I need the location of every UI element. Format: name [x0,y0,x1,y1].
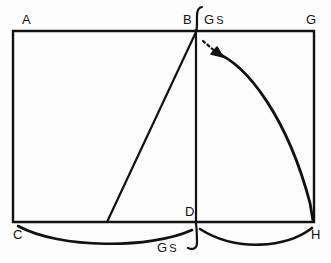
gs-annotation-top: GS [204,13,223,26]
brace-top-hook [196,7,202,32]
gs-bottom-s-letter: S [169,242,176,254]
arc-D-to-H [200,228,312,245]
diagram-canvas [0,0,331,263]
gs-annotation-bottom: GS [157,241,176,254]
vertex-label-A: A [22,13,31,26]
diagonal-line-B-to-CD [107,32,196,222]
gs-top-g-letter: G [204,12,214,27]
vertex-label-B: B [183,13,192,26]
swing-arc-B-to-H [214,52,313,221]
gs-top-s-letter: S [216,14,223,26]
vertex-label-C: C [13,228,23,241]
vertex-label-D: D [185,205,195,218]
vertex-label-G: G [306,13,316,26]
brace-bottom-hook [188,224,197,249]
outer-rectangle [13,31,314,222]
geometric-diagram: A B G C D H GS GS [0,0,331,263]
vertex-label-H: H [311,228,321,241]
gs-bottom-g-letter: G [157,240,167,255]
